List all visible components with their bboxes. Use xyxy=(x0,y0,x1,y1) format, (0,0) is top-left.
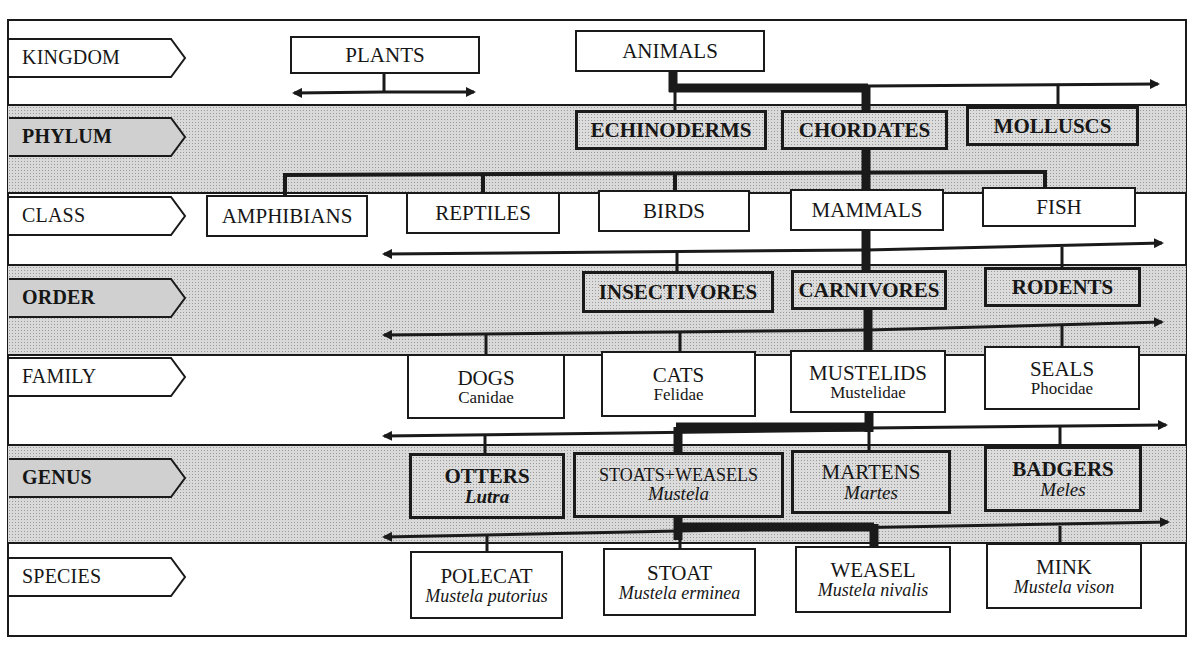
node-latin-name: Mustela nivalis xyxy=(818,581,929,600)
node-echinoderms: ECHINODERMS xyxy=(575,110,767,150)
node-weasel: WEASEL Mustela nivalis xyxy=(795,546,951,613)
node-name: AMPHIBIANS xyxy=(222,205,353,227)
rank-label-class: CLASS xyxy=(22,196,85,235)
node-polecat: POLECAT Mustela putorius xyxy=(410,551,563,619)
node-mink: MINK Mustela vison xyxy=(986,543,1142,609)
node-animals: ANIMALS xyxy=(575,30,765,72)
taxonomy-diagram: KINGDOM PHYLUM CLASS ORDER FAMILY GENUS … xyxy=(0,0,1195,646)
node-latin-name: Lutra xyxy=(465,487,509,507)
node-name: BADGERS xyxy=(1012,458,1114,480)
node-name: STOATS+WEASELS xyxy=(599,466,758,485)
node-mustelids: MUSTELIDS Mustelidae xyxy=(790,350,946,413)
rank-kingdom: KINGDOM xyxy=(8,38,188,77)
node-latin-name: Mustela xyxy=(648,484,709,504)
node-fish: FISH xyxy=(982,187,1136,227)
node-latin-name: Mustelidae xyxy=(830,384,906,402)
node-insectivores: INSECTIVORES xyxy=(582,271,774,313)
node-otters: OTTERS Lutra xyxy=(409,453,565,519)
node-name: MOLLUSCS xyxy=(994,115,1112,137)
rank-label-family: FAMILY xyxy=(22,357,96,396)
node-name: REPTILES xyxy=(435,202,531,224)
rank-label-order: ORDER xyxy=(22,278,95,317)
node-reptiles: REPTILES xyxy=(406,192,560,234)
node-cats: CATS Felidae xyxy=(601,351,756,417)
node-name: MUSTELIDS xyxy=(809,362,927,384)
node-name: CARNIVORES xyxy=(799,279,940,301)
node-name: OTTERS xyxy=(444,465,529,487)
node-plants: PLANTS xyxy=(290,36,480,74)
node-name: CATS xyxy=(653,364,704,386)
rank-order: ORDER xyxy=(8,278,188,317)
node-birds: BIRDS xyxy=(598,190,750,232)
node-name: INSECTIVORES xyxy=(599,281,757,303)
node-name: PLANTS xyxy=(345,44,424,66)
node-latin-name: Martes xyxy=(844,483,898,503)
node-name: STOAT xyxy=(647,562,712,584)
node-name: BIRDS xyxy=(643,200,705,222)
node-name: WEASEL xyxy=(830,559,915,581)
rank-family: FAMILY xyxy=(8,357,188,396)
node-latin-name: Felidae xyxy=(653,386,703,404)
node-latin-name: Mustela putorius xyxy=(425,587,548,606)
node-name: ECHINODERMS xyxy=(590,119,751,141)
node-stoat: STOAT Mustela erminea xyxy=(603,548,756,616)
node-mammals: MAMMALS xyxy=(790,189,944,231)
node-martens: MARTENS Martes xyxy=(791,450,951,514)
rank-label-species: SPECIES xyxy=(22,557,101,596)
node-name: RODENTS xyxy=(1012,276,1114,298)
node-amphibians: AMPHIBIANS xyxy=(206,195,368,237)
rank-label-phylum: PHYLUM xyxy=(22,117,112,156)
node-name: POLECAT xyxy=(440,565,532,587)
node-latin-name: Mustela vison xyxy=(1014,578,1115,597)
node-latin-name: Meles xyxy=(1040,480,1085,500)
node-carnivores: CARNIVORES xyxy=(791,270,947,310)
rank-species: SPECIES xyxy=(8,557,188,596)
rank-genus: GENUS xyxy=(8,458,188,497)
node-name: FISH xyxy=(1036,196,1082,218)
node-chordates: CHORDATES xyxy=(781,110,948,150)
rank-phylum: PHYLUM xyxy=(8,117,188,156)
rank-label-kingdom: KINGDOM xyxy=(22,38,120,77)
node-rodents: RODENTS xyxy=(984,267,1141,307)
node-name: SEALS xyxy=(1030,358,1094,380)
node-name: CHORDATES xyxy=(799,119,930,141)
node-name: MAMMALS xyxy=(812,199,923,221)
node-seals: SEALS Phocidae xyxy=(984,346,1140,410)
rank-label-genus: GENUS xyxy=(22,458,92,497)
node-name: MARTENS xyxy=(821,461,920,483)
node-latin-name: Canidae xyxy=(458,389,514,407)
node-latin-name: Phocidae xyxy=(1031,380,1093,398)
node-name: MINK xyxy=(1036,556,1092,578)
node-name: ANIMALS xyxy=(622,40,718,62)
node-stoats-weasels: STOATS+WEASELS Mustela xyxy=(573,452,784,518)
node-name: DOGS xyxy=(457,367,514,389)
rank-class: CLASS xyxy=(8,196,188,235)
node-dogs: DOGS Canidae xyxy=(407,354,565,419)
node-molluscs: MOLLUSCS xyxy=(966,106,1139,146)
node-latin-name: Mustela erminea xyxy=(619,584,740,603)
node-badgers: BADGERS Meles xyxy=(984,446,1142,512)
